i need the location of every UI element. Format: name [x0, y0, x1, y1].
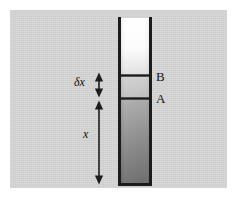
x-arrow: [95, 101, 103, 185]
x-label: x: [83, 128, 88, 140]
tube-sheen-overlay: [120, 18, 151, 185]
delta-x-label: δx: [74, 76, 85, 88]
level-a-label: A: [156, 92, 165, 105]
figure-root: δx x B A: [0, 0, 237, 198]
delta-x-arrow: [95, 73, 103, 98]
column-diagram: [0, 0, 237, 198]
level-b-label: B: [156, 70, 165, 83]
